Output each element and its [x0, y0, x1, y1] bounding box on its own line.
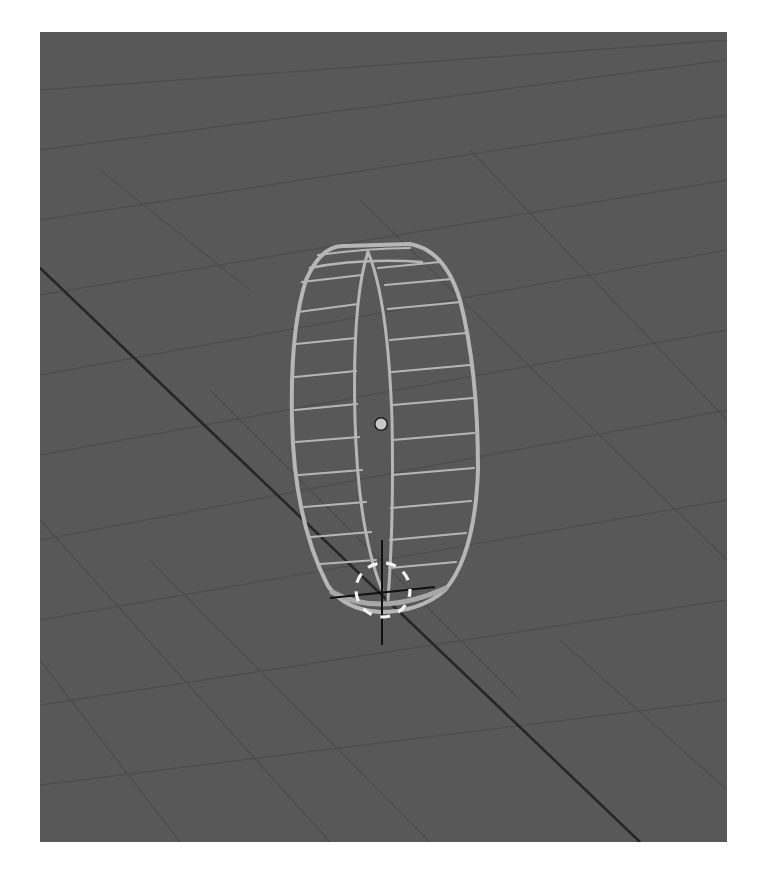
floor-grid	[40, 40, 727, 842]
object-origin-dot[interactable]	[374, 417, 388, 431]
x-axis-line	[40, 268, 640, 842]
3d-viewport[interactable]: 3D Viewport	[40, 32, 727, 842]
